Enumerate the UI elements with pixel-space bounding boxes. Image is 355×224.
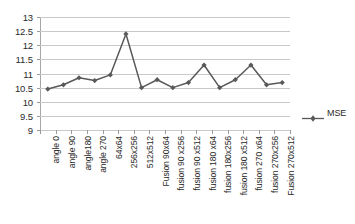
x-axis-tick-label: 64x64 bbox=[114, 109, 124, 134]
x-axis-tick-label-text: fusion 180 x512 bbox=[239, 134, 249, 195]
y-axis-tick-label: 12 bbox=[0, 40, 33, 51]
x-axis-tick-label: fusion 90 x256 bbox=[176, 77, 186, 134]
x-axis-labels: angle 0angle 90angle180angle 27064x64256… bbox=[40, 134, 290, 222]
data-point-marker bbox=[139, 85, 144, 90]
y-axis-tick-label: 11.5 bbox=[0, 54, 33, 65]
x-axis-tick-label-text: fusion 270x256 bbox=[270, 134, 280, 193]
x-axis-tick-label: fusion 180 x64 bbox=[208, 77, 218, 134]
x-axis-tick-label: fusion 180 x512 bbox=[239, 73, 249, 134]
x-axis-tick-label-text: 512x512 bbox=[145, 134, 155, 168]
data-point-marker bbox=[155, 77, 160, 82]
y-axis-labels: 1312.51211.51110.5109.59 bbox=[0, 11, 33, 135]
data-point-marker bbox=[123, 31, 128, 36]
x-axis-tick-label: Fusion 270x512 bbox=[286, 72, 296, 134]
x-axis-tick-label-text: fusion 270 x64 bbox=[254, 134, 264, 191]
y-axis-tick-label: 10.5 bbox=[0, 82, 33, 93]
data-point-marker bbox=[92, 78, 97, 83]
x-axis-tick-label-text: 256x256 bbox=[129, 134, 139, 168]
data-point-marker bbox=[280, 80, 285, 85]
x-axis-tick-label: 512x512 bbox=[145, 100, 155, 134]
y-axis-tick-label: 9 bbox=[0, 125, 33, 136]
x-axis-tick-label-text: 64x64 bbox=[114, 134, 124, 159]
x-axis-tick-label: fusion 270x256 bbox=[270, 75, 280, 134]
x-axis-tick-label-text: angle 90 bbox=[67, 134, 77, 168]
data-point-marker bbox=[76, 75, 81, 80]
mse-line-chart: 1312.51211.51110.5109.59 angle 0angle 90… bbox=[0, 0, 355, 224]
y-axis-tick-label: 11 bbox=[0, 68, 33, 79]
y-axis-tick-label: 12.5 bbox=[0, 26, 33, 37]
x-axis-tick-label: angle 0 bbox=[51, 105, 61, 135]
data-point-marker bbox=[108, 72, 113, 77]
x-axis-tick-label: Fusion 90x64 bbox=[161, 82, 171, 134]
y-axis-tick-label: 10 bbox=[0, 96, 33, 107]
x-axis-tick-label-text: angle180 bbox=[83, 134, 93, 171]
chart-legend: MSE bbox=[302, 108, 346, 118]
x-axis-tick-label: 256x256 bbox=[129, 100, 139, 134]
x-axis-tick-label-text: Fusion 90x64 bbox=[161, 134, 171, 186]
x-axis-tick-label: angle 90 bbox=[67, 100, 77, 134]
data-point-marker bbox=[45, 86, 50, 91]
legend-label-mse: MSE bbox=[327, 108, 346, 118]
x-axis-tick-label: angle180 bbox=[83, 97, 93, 134]
y-axis-tick-label: 13 bbox=[0, 12, 33, 23]
x-axis-tick-label-text: fusion 90 x256 bbox=[176, 134, 186, 191]
x-axis-tick-label: fusion 180x256 bbox=[223, 75, 233, 134]
x-axis-tick-label-text: fusion 180 x64 bbox=[208, 134, 218, 191]
x-axis-tick-label-text: angle 270 bbox=[98, 134, 108, 173]
x-axis-tick-label-text: Fusion 270x512 bbox=[286, 134, 296, 196]
x-axis-tick-label: angle 270 bbox=[98, 95, 108, 134]
x-axis-tick-label-text: fusion 90 x512 bbox=[192, 134, 202, 191]
y-axis-tick-label: 9.5 bbox=[0, 110, 33, 121]
data-point-marker bbox=[61, 82, 66, 87]
x-axis-tick-label-text: fusion 180x256 bbox=[223, 134, 233, 193]
x-axis-tick-label-text: angle 0 bbox=[51, 134, 61, 164]
x-axis-tick-label: fusion 90 x512 bbox=[192, 77, 202, 134]
legend-marker-icon bbox=[302, 109, 324, 118]
x-axis-tick-label: fusion 270 x64 bbox=[254, 77, 264, 134]
